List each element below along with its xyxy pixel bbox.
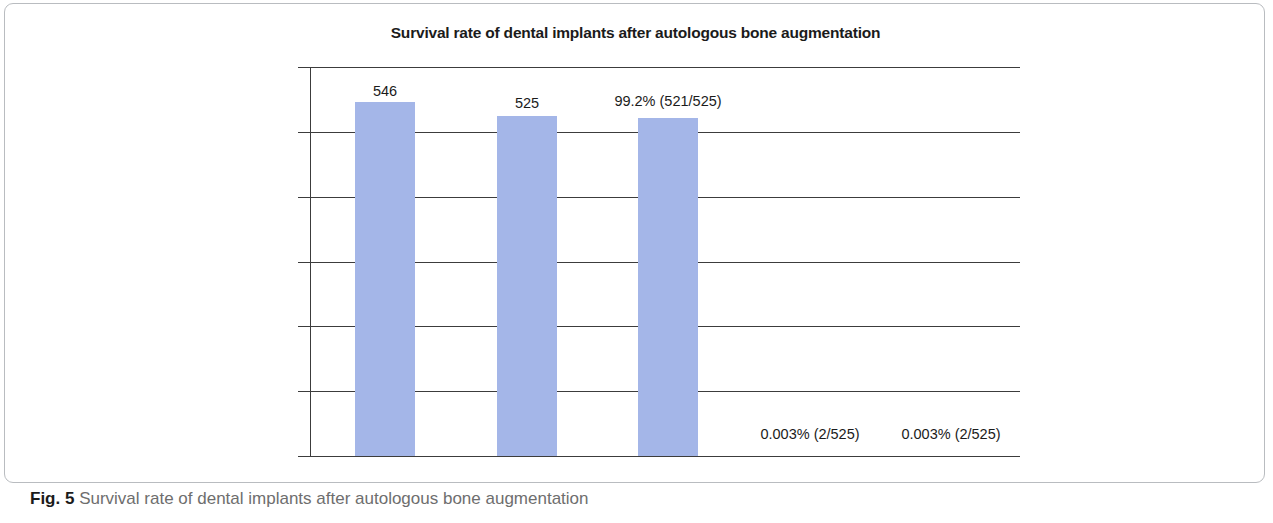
y-tick-300 [298,262,310,263]
value-label-success: 99.2% (521/525) [614,93,721,109]
figure-frame: Survival rate of dental implants after a… [4,3,1265,483]
figure-caption: Fig. 5 Survival rate of dental implants … [30,489,589,509]
figure-caption-text: Survival rate of dental implants after a… [79,489,588,508]
y-tick-200 [298,326,310,327]
gridline-0 [310,456,1020,457]
chart-title: Survival rate of dental implants after a… [5,24,1266,42]
y-tick-400 [298,197,310,198]
value-label-planed: 546 [373,83,397,99]
y-tick-0 [298,456,310,457]
bar-planed[interactable] [355,102,415,456]
value-label-inserted: 525 [515,95,539,111]
y-axis-line [310,67,311,456]
y-tick-600 [298,67,310,68]
gridline-600 [310,67,1020,68]
bar-inserted[interactable] [497,116,557,456]
figure-caption-tag: Fig. 5 [30,489,74,508]
y-tick-100 [298,391,310,392]
chart-plot-area: 600 500 400 300 200 100 0 546 525 99.2% … [310,67,1020,456]
value-label-late-failure: 0.003% (2/525) [901,426,1000,442]
value-label-early-failure: 0.003% (2/525) [760,426,859,442]
y-tick-500 [298,132,310,133]
bar-success[interactable] [638,118,698,456]
